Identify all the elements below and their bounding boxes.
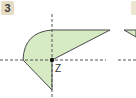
rotation-diagram [0, 0, 136, 98]
exercise-figure-panel: 3 Z [0, 0, 136, 98]
center-point-z [50, 58, 54, 62]
next-figure-partial [124, 30, 136, 37]
center-label: Z [55, 63, 61, 74]
